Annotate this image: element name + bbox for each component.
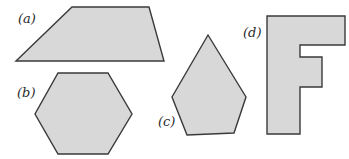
trapezoid-shape-a (16, 7, 164, 61)
letter-f-shape-d (267, 16, 345, 134)
label-b: (b) (17, 86, 35, 99)
label-c: (c) (158, 115, 175, 128)
label-d: (d) (243, 26, 261, 39)
hexagon-shape-b (35, 73, 132, 154)
pentagon-shape-c (172, 35, 246, 135)
label-a: (a) (18, 12, 36, 25)
polygon-figure (0, 0, 349, 159)
